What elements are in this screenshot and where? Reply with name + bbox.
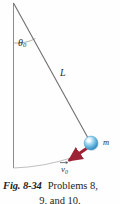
pendulum-diagram xyxy=(0,0,120,178)
figure-number: Fig. 8-34 xyxy=(3,180,42,191)
figure-caption: Fig. 8-34Problems 8, xyxy=(0,180,120,192)
theta-subscript: 0 xyxy=(23,41,26,48)
figure-container: θ0 L m v0 Fig. 8-34Problems 8, 9, and 10… xyxy=(0,0,120,204)
figure-caption-line2: 9, and 10. xyxy=(0,195,120,204)
caption-text: Problems 8, xyxy=(48,180,98,191)
velocity-vector-arrow xyxy=(69,148,88,161)
string-length-label: L xyxy=(60,68,66,78)
angle-label-theta-zero: θ0 xyxy=(18,38,26,49)
v-subscript: 0 xyxy=(65,169,68,175)
mass-label: m xyxy=(103,138,109,147)
pendulum-string xyxy=(14,3,91,143)
velocity-label-v-zero: v0 xyxy=(61,165,68,175)
bob-highlight xyxy=(87,139,91,143)
pendulum-bob xyxy=(84,136,98,150)
